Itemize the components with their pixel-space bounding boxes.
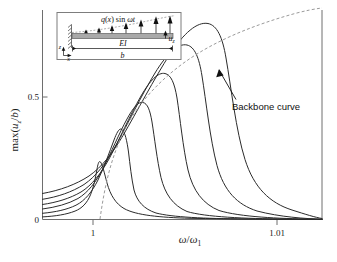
inset-stiffness-label: EI xyxy=(118,39,127,48)
x-tick-label-1: 1 xyxy=(91,228,96,238)
x-tick-label-1.01: 1.01 xyxy=(269,228,285,238)
inset-schematic: q(x) sin ωt EI b uz z x xyxy=(57,13,181,63)
frequency-response-figure: 0.5 0 1 1.01 ω/ω1 max(uz/b) xyxy=(0,0,337,262)
annotation-label: Backbone curve xyxy=(232,101,300,112)
inset-load-label: q(x) sin ωt xyxy=(101,15,136,24)
y-tick-label-0.5: 0.5 xyxy=(28,92,40,102)
y-tick-label-0: 0 xyxy=(35,215,40,225)
inset-span-label: b xyxy=(121,51,125,60)
frequency-response-chart: 0.5 0 1 1.01 ω/ω1 max(uz/b) xyxy=(0,0,337,262)
inset-axis-x-label: x xyxy=(66,56,70,62)
beam-body xyxy=(72,34,173,39)
